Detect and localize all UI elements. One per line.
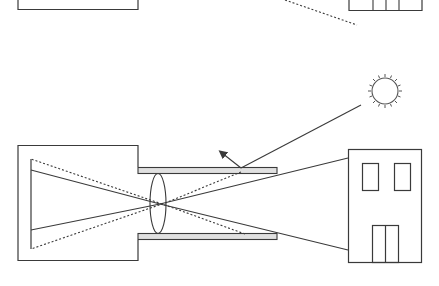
sun-icon	[368, 74, 402, 108]
lens-barrel-bottom	[138, 234, 277, 240]
building	[349, 150, 422, 263]
top-partial-camera-box	[18, 0, 138, 10]
sun-ray	[241, 105, 361, 168]
diagram-canvas	[0, 0, 439, 286]
building-window-right	[395, 164, 411, 191]
building-window-left	[363, 164, 379, 191]
top-partial-building	[349, 0, 422, 11]
top-dotted-ray	[285, 0, 357, 25]
lens-barrel-top	[138, 168, 277, 174]
camera-body	[18, 146, 138, 261]
reflected-ray-arrow	[222, 153, 241, 168]
